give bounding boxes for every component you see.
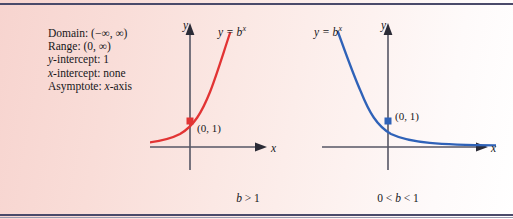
growth-curve-label-base: y = b — [218, 26, 242, 38]
growth-x-axis-label: x — [271, 142, 276, 154]
decay-caption-prefix: 0 < — [377, 192, 395, 204]
bottom-divider-shadow — [0, 217, 513, 218]
property-x-intercept-text: -intercept: none — [53, 67, 125, 79]
growth-point-label: (0, 1) — [197, 122, 221, 134]
panel-exponential-decay: y x y = bx (0, 1) 0 < b < 1 — [300, 10, 496, 210]
properties-list: Domain: (−∞, ∞) Range: (0, ∞) y-intercep… — [48, 27, 132, 93]
decay-y-axis-label: y — [381, 19, 386, 31]
growth-caption-relation: > 1 — [242, 192, 260, 204]
decay-point-label: (0, 1) — [395, 110, 419, 122]
growth-y-axis-label: y — [183, 19, 188, 31]
decay-caption: 0 < b < 1 — [300, 192, 496, 204]
property-range: Range: (0, ∞) — [48, 40, 132, 53]
property-domain: Domain: (−∞, ∞) — [48, 27, 132, 40]
property-x-intercept: x-intercept: none — [48, 67, 132, 80]
growth-x-axis — [150, 143, 267, 152]
exponential-function-figure: Domain: (−∞, ∞) Range: (0, ∞) y-intercep… — [0, 0, 513, 219]
property-y-intercept-text: -intercept: 1 — [53, 53, 109, 65]
decay-curve-label-base: y = b — [314, 26, 338, 38]
decay-caption-relation: < 1 — [401, 192, 419, 204]
decay-curve-label: y = bx — [314, 24, 342, 38]
growth-curve-label-exponent: x — [242, 24, 246, 33]
decay-curve-label-exponent: x — [338, 24, 342, 33]
decay-intercept-point — [385, 118, 392, 125]
growth-curve-label: y = bx — [218, 24, 246, 38]
property-y-intercept: y-intercept: 1 — [48, 53, 132, 66]
property-asymptote-lead: Asymptote: — [48, 80, 105, 92]
bottom-divider-rule — [0, 214, 513, 216]
growth-y-axis — [186, 23, 195, 170]
property-asymptote-text: -axis — [110, 80, 132, 92]
growth-intercept-point — [187, 118, 194, 125]
decay-curve — [338, 32, 496, 145]
decay-y-axis — [384, 23, 393, 170]
property-asymptote: Asymptote: x-axis — [48, 80, 132, 93]
decay-x-axis-label: x — [491, 142, 496, 154]
top-divider-rule — [0, 3, 513, 5]
